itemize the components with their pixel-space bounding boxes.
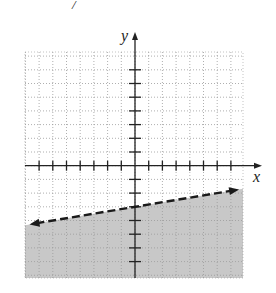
y-axis-label: y: [119, 27, 129, 45]
header-fragment: /: [71, 0, 77, 12]
inequality-graph: / y x: [0, 0, 276, 293]
shaded-region: [25, 189, 243, 278]
shade-polygon: [25, 189, 243, 278]
y-axis-arrow-icon: [132, 32, 138, 40]
x-axis-label: x: [252, 168, 260, 185]
